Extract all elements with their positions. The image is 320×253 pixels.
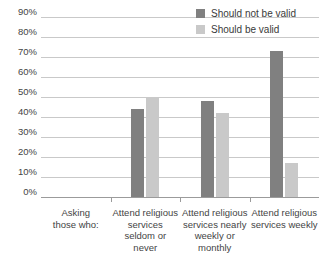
- legend-item: Should not be valid: [196, 6, 320, 20]
- x-axis-label: Attend religiousservices seldom ornever: [112, 207, 180, 253]
- x-axis-label-line: services weekly: [251, 219, 319, 231]
- category-tick: [180, 197, 181, 202]
- bar: [201, 101, 214, 197]
- x-axis-label-line: Attend religious: [112, 207, 180, 219]
- bar: [131, 109, 144, 197]
- legend-label: Should be valid: [211, 24, 279, 35]
- y-tick-label: 90%: [18, 7, 37, 17]
- bar: [146, 97, 159, 197]
- x-axis-label-line: services nearly: [181, 219, 249, 231]
- chart-legend: Should not be validShould be valid: [196, 6, 320, 38]
- y-tick-label: 20%: [18, 147, 37, 157]
- bar-group: [131, 17, 159, 197]
- y-tick-label: 10%: [18, 167, 37, 177]
- x-axis-labels: Askingthose who:Attend religiousservices…: [0, 207, 320, 250]
- legend-label: Should not be valid: [211, 8, 296, 19]
- y-tick-label: 60%: [18, 67, 37, 77]
- x-axis-label-line: never: [112, 242, 180, 253]
- x-axis-label-line: weekly or monthly: [181, 230, 249, 253]
- x-axis-label-line: Attend religious: [251, 207, 319, 219]
- bar-group: [270, 17, 298, 197]
- x-axis-label-line: services seldom or: [112, 219, 180, 242]
- y-tick-label: 40%: [18, 107, 37, 117]
- category-tick: [111, 197, 112, 202]
- x-axis-label: Attend religiousservices weekly: [251, 207, 319, 230]
- x-axis-label: Askingthose who:: [42, 207, 110, 230]
- x-axis-label-line: those who:: [42, 219, 110, 231]
- x-axis-label-line: Asking: [42, 207, 110, 219]
- y-tick-label: 70%: [18, 47, 37, 57]
- plot-area: [41, 17, 319, 197]
- y-tick-label: 0%: [23, 187, 37, 197]
- legend-item: Should be valid: [196, 22, 320, 36]
- y-tick-label: 80%: [18, 27, 37, 37]
- x-axis-label-line: Attend religious: [181, 207, 249, 219]
- legend-swatch-icon: [196, 25, 205, 34]
- bar: [285, 163, 298, 197]
- bar: [216, 113, 229, 197]
- legend-swatch-icon: [196, 9, 205, 18]
- y-axis: 0%10%20%30%40%50%60%70%80%90%: [0, 0, 40, 200]
- x-axis-label: Attend religiousservices nearlyweekly or…: [181, 207, 249, 253]
- bar: [270, 51, 283, 197]
- y-tick-label: 30%: [18, 127, 37, 137]
- y-tick-label: 50%: [18, 87, 37, 97]
- category-tick: [250, 197, 251, 202]
- bar-group: [201, 17, 229, 197]
